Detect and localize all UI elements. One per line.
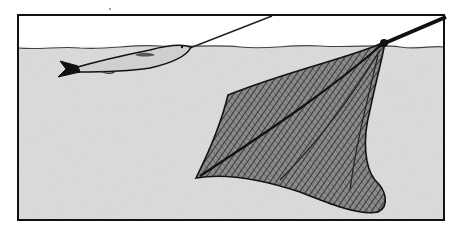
fishing-net-illustration [0, 0, 458, 231]
net-handle-joint [380, 39, 388, 47]
speck [109, 8, 111, 10]
